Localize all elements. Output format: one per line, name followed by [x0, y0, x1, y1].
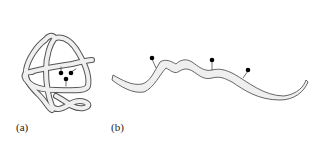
panel-a-dots	[61, 67, 76, 86]
dot-icon	[150, 56, 155, 61]
dot-icon	[64, 77, 69, 82]
figure-canvas	[0, 0, 324, 144]
panel-a-folded-strand	[25, 36, 92, 110]
panel-a-label: (a)	[16, 122, 28, 133]
dot-icon	[246, 68, 251, 73]
panel-b-extended-strand	[112, 56, 308, 100]
panel-b-label: (b)	[111, 122, 124, 133]
dot-icon	[59, 71, 64, 76]
dot-icon	[69, 71, 74, 76]
dot-icon	[210, 58, 215, 63]
